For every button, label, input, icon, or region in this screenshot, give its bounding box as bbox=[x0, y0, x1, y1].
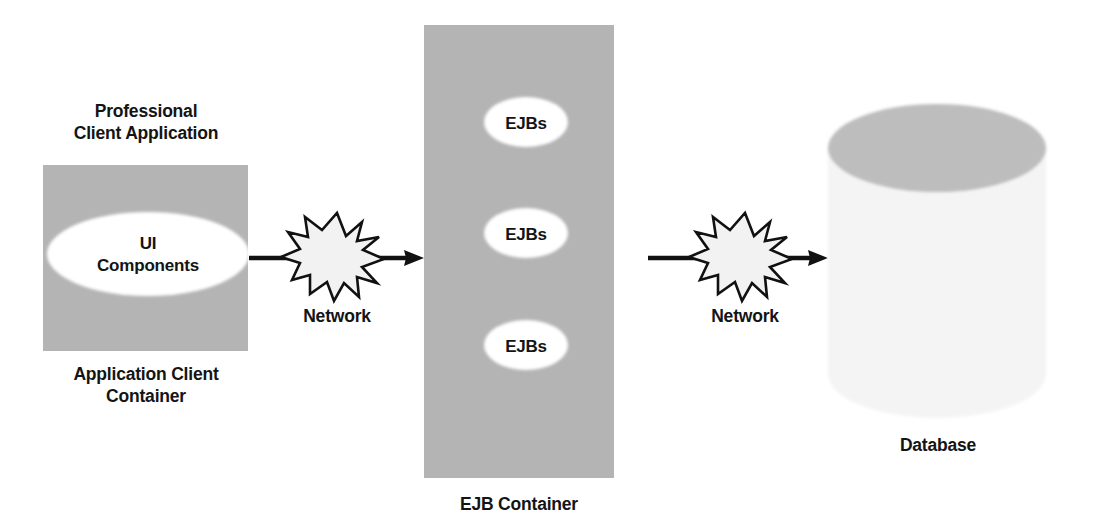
ejb-node-3-label: EJBs bbox=[505, 337, 547, 356]
ui-components-node bbox=[47, 212, 249, 296]
ejb-node-1-label: EJBs bbox=[505, 114, 547, 133]
connector-client-to-ejb: Network bbox=[249, 213, 424, 326]
database-caption: Database bbox=[900, 435, 977, 455]
ejb-node-2-label: EJBs bbox=[505, 225, 547, 244]
application-client-container-caption-line2: Container bbox=[106, 386, 186, 406]
connector-2-network-label: Network bbox=[711, 306, 779, 326]
architecture-diagram: Professional Client Application UI Compo… bbox=[0, 0, 1100, 530]
diagram-canvas: Professional Client Application UI Compo… bbox=[0, 0, 1100, 530]
data-tier-group: Database bbox=[828, 104, 1046, 455]
network-burst-icon bbox=[281, 213, 384, 301]
ui-components-label-line2: Components bbox=[97, 256, 199, 275]
connector-1-arrowhead bbox=[404, 250, 424, 266]
client-tier-title-line1: Professional bbox=[95, 101, 198, 121]
network-burst-icon bbox=[689, 213, 792, 301]
database-cylinder-top bbox=[828, 104, 1046, 192]
connector-1-network-label: Network bbox=[303, 306, 371, 326]
client-tier-group: Professional Client Application UI Compo… bbox=[43, 101, 249, 406]
application-client-container-caption-line1: Application Client bbox=[73, 364, 219, 384]
ejb-container-caption: EJB Container bbox=[460, 494, 578, 514]
connector-2-arrowhead bbox=[808, 250, 828, 266]
client-tier-title-line2: Client Application bbox=[74, 123, 219, 143]
ui-components-label-line1: UI bbox=[140, 234, 157, 253]
connector-ejb-to-database: Network bbox=[648, 213, 828, 326]
business-tier-group: EJBs EJBs EJBs EJB Container bbox=[424, 25, 614, 514]
